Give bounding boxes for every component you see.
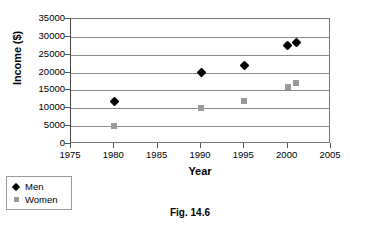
data-point-men <box>196 68 206 78</box>
data-point-women <box>198 105 204 111</box>
diamond-marker <box>10 184 22 190</box>
y-tick-mark <box>65 36 70 37</box>
data-point-men <box>291 37 301 47</box>
data-point-men <box>109 96 119 106</box>
data-point-men <box>239 60 249 70</box>
square-marker-shape <box>14 197 19 202</box>
x-tick-label: 1990 <box>178 150 222 160</box>
x-tick-label: 1995 <box>221 150 265 160</box>
x-tick-mark <box>287 143 288 148</box>
y-tick-label: 15000 <box>5 84 65 94</box>
y-tick-label: 5000 <box>5 120 65 130</box>
y-tick-mark <box>65 107 70 108</box>
y-tick-label: 0 <box>5 138 65 148</box>
y-tick-mark <box>65 54 70 55</box>
figure-caption: Fig. 14.6 <box>0 207 380 218</box>
gridline <box>71 37 329 38</box>
x-tick-mark <box>70 143 71 148</box>
plot-area <box>70 18 330 143</box>
x-tick-label: 2005 <box>308 150 352 160</box>
x-tick-mark <box>330 143 331 148</box>
diamond-marker-shape <box>12 182 20 190</box>
legend-item-women: Women <box>10 193 67 206</box>
y-tick-mark <box>65 18 70 19</box>
y-tick-label: 10000 <box>5 102 65 112</box>
data-point-women <box>293 80 299 86</box>
y-tick-label: 35000 <box>5 13 65 23</box>
x-axis-title: Year <box>70 165 330 177</box>
y-tick-mark <box>65 125 70 126</box>
legend: MenWomen <box>6 176 72 210</box>
y-tick-mark <box>65 72 70 73</box>
legend-label: Men <box>22 181 43 192</box>
legend-item-men: Men <box>10 180 67 193</box>
y-tick-label: 25000 <box>5 49 65 59</box>
x-tick-label: 2000 <box>265 150 309 160</box>
y-tick-mark <box>65 89 70 90</box>
gridline <box>71 126 329 127</box>
gridline <box>71 55 329 56</box>
data-point-women <box>111 123 117 129</box>
legend-label: Women <box>22 194 58 205</box>
x-tick-mark <box>200 143 201 148</box>
x-tick-mark <box>243 143 244 148</box>
x-tick-mark <box>113 143 114 148</box>
x-tick-label: 1980 <box>91 150 135 160</box>
data-point-women <box>285 84 291 90</box>
x-tick-mark <box>157 143 158 148</box>
data-point-women <box>241 98 247 104</box>
figure-14-6: Income ($) 05000100001500020000250003000… <box>0 0 380 228</box>
x-tick-label: 1985 <box>135 150 179 160</box>
x-tick-label: 1975 <box>48 150 92 160</box>
y-tick-label: 30000 <box>5 31 65 41</box>
gridline <box>71 90 329 91</box>
y-tick-label: 20000 <box>5 67 65 77</box>
square-marker <box>10 197 22 202</box>
